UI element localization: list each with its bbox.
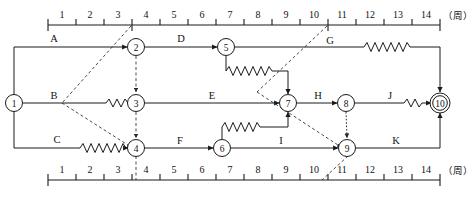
top-tick-label-2: 2 (88, 9, 93, 20)
activity-label-B: B (50, 90, 57, 101)
top-tick-label-9: 9 (284, 9, 289, 20)
network-diagram-canvas: 1 2 3 4 5 6 7 8 9 10 11 12 13 14 （周） (0, 0, 472, 202)
event-node-10-label: 10 (435, 99, 445, 109)
event-node-6-label: 6 (220, 144, 225, 154)
activity-arrow-A (14, 47, 127, 95)
top-axis-unit-label: （周） (443, 10, 472, 21)
activity-label-A: A (50, 33, 58, 44)
top-tick-label-1: 1 (60, 9, 65, 20)
event-node-4[interactable]: 4 (128, 140, 145, 157)
event-node-9[interactable]: 9 (339, 140, 356, 157)
bottom-tick-label-1: 1 (60, 164, 65, 175)
guide-line-week10-lower (257, 92, 341, 147)
float-wave-B (106, 99, 128, 107)
bottom-tick-label-5: 5 (172, 164, 177, 175)
bottom-tick-label-13: 13 (393, 164, 403, 175)
activity-label-I: I (279, 135, 283, 146)
event-node-8-label: 8 (344, 99, 349, 109)
dummy-link-8-to-9 (346, 112, 347, 138)
top-tick-label-12: 12 (365, 9, 375, 20)
top-tick-label-10: 10 (309, 9, 319, 20)
event-node-7-label: 7 (286, 99, 291, 109)
float-wave-C (80, 144, 128, 153)
bottom-tick-label-11: 11 (337, 164, 347, 175)
activity-label-C: C (53, 134, 60, 145)
top-axis: 1 2 3 4 5 6 7 8 9 10 11 12 13 14 （周） (48, 9, 472, 31)
event-node-5[interactable]: 5 (218, 39, 235, 56)
bottom-axis-unit-label: （周） (443, 165, 472, 176)
bottom-tick-label-14: 14 (421, 164, 431, 175)
top-tick-label-3: 3 (116, 9, 121, 20)
activity-label-K: K (392, 135, 400, 146)
top-tick-label-4: 4 (144, 9, 149, 20)
network-diagram-figure: 1 2 3 4 5 6 7 8 9 10 11 12 13 14 （周） (0, 0, 472, 202)
event-node-5-label: 5 (224, 43, 229, 53)
top-tick-label-6: 6 (200, 9, 205, 20)
top-tick-label-11: 11 (337, 9, 347, 20)
activity-label-J: J (388, 90, 392, 101)
activity-label-E: E (209, 90, 215, 101)
bottom-tick-label-10: 10 (309, 164, 319, 175)
event-node-6[interactable]: 6 (214, 140, 231, 157)
event-node-8[interactable]: 8 (338, 95, 355, 112)
bottom-tick-label-6: 6 (200, 164, 205, 175)
activity-label-D: D (177, 33, 185, 44)
guide-line-week4-lower (62, 103, 131, 147)
event-node-4-label: 4 (134, 144, 139, 154)
event-node-3[interactable]: 3 (128, 95, 145, 112)
event-node-1[interactable]: 1 (6, 95, 23, 112)
event-node-7[interactable]: 7 (280, 95, 297, 112)
event-node-9-label: 9 (345, 144, 350, 154)
event-nodes: 1 2 3 4 5 6 7 (6, 39, 451, 157)
bottom-axis: 1 2 3 4 5 6 7 8 9 10 11 12 13 14 （周） (48, 164, 472, 186)
guide-line-week10-upper (257, 26, 327, 92)
activity-label-F: F (177, 135, 183, 146)
float-wave-5-to-7 (226, 67, 288, 76)
event-node-1-label: 1 (12, 99, 17, 109)
bottom-tick-label-9: 9 (284, 164, 289, 175)
float-wave-6-to-7 (222, 123, 288, 132)
event-node-10[interactable]: 10 (430, 93, 450, 113)
event-node-2[interactable]: 2 (128, 39, 145, 56)
event-node-2-label: 2 (134, 43, 139, 53)
bottom-tick-label-2: 2 (88, 164, 93, 175)
activity-label-H: H (314, 90, 322, 101)
link-G-to-10 (418, 47, 440, 92)
activity-arrows (14, 43, 440, 153)
float-wave-G (364, 43, 418, 52)
bottom-tick-label-7: 7 (228, 164, 233, 175)
top-tick-label-13: 13 (393, 9, 403, 20)
float-wave-J (404, 99, 422, 107)
bottom-tick-label-4: 4 (144, 164, 149, 175)
top-tick-label-8: 8 (256, 9, 261, 20)
event-node-3-label: 3 (134, 99, 139, 109)
guide-line-week4-upper (62, 26, 131, 103)
bottom-tick-label-8: 8 (256, 164, 261, 175)
activity-label-G: G (326, 35, 334, 46)
activity-arrow-C (14, 111, 80, 148)
top-tick-label-7: 7 (228, 9, 233, 20)
top-tick-label-5: 5 (172, 9, 177, 20)
bottom-tick-label-12: 12 (365, 164, 375, 175)
top-tick-label-14: 14 (421, 9, 431, 20)
bottom-tick-label-3: 3 (116, 164, 121, 175)
